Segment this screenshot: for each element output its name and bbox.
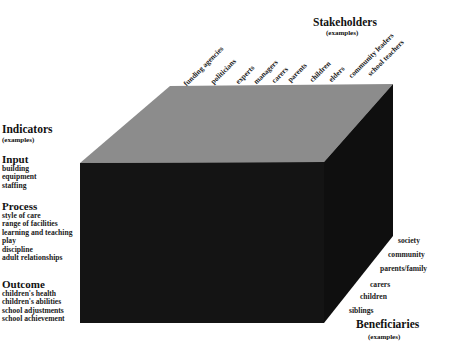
indicator-item: staffing bbox=[2, 182, 37, 190]
indicator-section-input: Input building equipment staffing bbox=[2, 153, 37, 190]
indicator-item: school achievement bbox=[2, 315, 65, 323]
stakeholders-title: Stakeholders bbox=[313, 16, 377, 28]
stakeholders-subtitle: (examples) bbox=[326, 29, 358, 37]
indicators-title: Indicators bbox=[2, 123, 52, 135]
indicator-item: adult relationships bbox=[2, 254, 72, 262]
indicator-section-process: Process style of care range of facilitie… bbox=[2, 200, 72, 262]
beneficiary-item: carers bbox=[370, 280, 390, 289]
beneficiary-item: children bbox=[360, 292, 387, 301]
beneficiary-item: community bbox=[388, 250, 425, 259]
beneficiaries-subtitle: (examples) bbox=[368, 333, 400, 341]
indicators-subtitle: (examples) bbox=[2, 136, 34, 144]
cube-front-face bbox=[80, 162, 324, 323]
indicator-section-outcome: Outcome children's health children's abi… bbox=[2, 278, 65, 324]
beneficiary-item: siblings bbox=[349, 306, 373, 315]
beneficiary-item: parents/family bbox=[380, 264, 427, 273]
beneficiary-item: society bbox=[398, 236, 420, 245]
beneficiaries-title: Beneficiaries bbox=[356, 318, 419, 330]
